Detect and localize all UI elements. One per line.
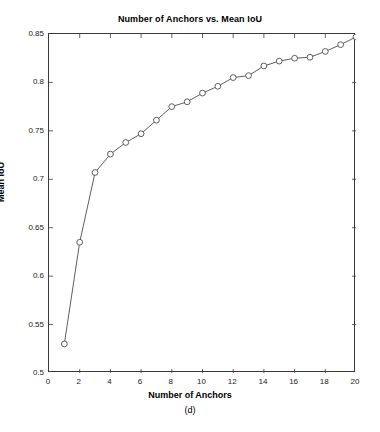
figure-caption: (d) [0, 405, 380, 415]
data-point [230, 75, 236, 81]
plot-svg [49, 34, 356, 373]
data-point [77, 239, 83, 245]
y-tick-label: 0.55 [6, 319, 44, 328]
y-tick-label: 0.75 [6, 125, 44, 134]
y-tick-label: 0.6 [6, 271, 44, 280]
y-tick-label: 0.5 [6, 368, 44, 377]
y-tick-label: 0.85 [6, 29, 44, 38]
data-point [154, 117, 160, 123]
data-point [307, 54, 313, 60]
x-tick-label: 2 [76, 377, 80, 386]
data-point [138, 131, 144, 137]
x-tick-label: 6 [138, 377, 142, 386]
data-point [322, 49, 328, 55]
y-tick-label: 0.65 [6, 222, 44, 231]
x-tick-label: 10 [197, 377, 206, 386]
chart-title: Number of Anchors vs. Mean IoU [0, 14, 380, 24]
data-point [246, 73, 252, 79]
y-tick-label: 0.8 [6, 77, 44, 86]
x-tick-label: 8 [169, 377, 173, 386]
x-tick-label: 20 [351, 377, 360, 386]
data-point [261, 63, 267, 69]
plot-area [48, 33, 355, 372]
data-point [200, 90, 206, 96]
figure-container: Number of Anchors vs. Mean IoU 0.50.550.… [0, 0, 380, 432]
data-point [108, 151, 114, 157]
y-axis-label: Mean IoU [0, 162, 6, 202]
data-point [353, 34, 356, 40]
x-tick-label: 18 [320, 377, 329, 386]
data-point [338, 42, 344, 48]
data-point [215, 83, 221, 89]
y-tick-label: 0.7 [6, 174, 44, 183]
data-point [292, 55, 298, 61]
x-axis-label: Number of Anchors [0, 390, 380, 400]
x-tick-label: 12 [228, 377, 237, 386]
data-point [123, 140, 129, 146]
x-tick-label: 14 [258, 377, 267, 386]
data-point [61, 341, 67, 347]
data-point [169, 104, 175, 110]
data-point [92, 170, 98, 176]
x-tick-label: 4 [107, 377, 111, 386]
x-tick-label: 0 [46, 377, 50, 386]
data-line [64, 37, 356, 344]
data-point-markers [61, 34, 356, 347]
tick-marks [49, 34, 356, 373]
data-point [276, 58, 282, 64]
data-point [184, 99, 190, 105]
x-tick-label: 16 [289, 377, 298, 386]
